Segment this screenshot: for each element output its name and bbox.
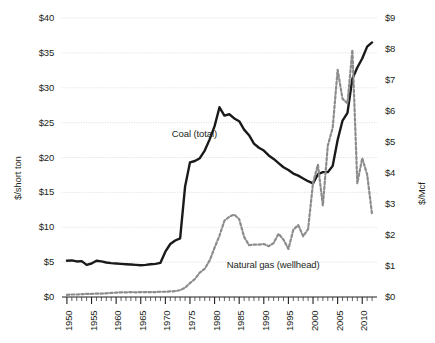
y-axis-right-tick: $4 <box>385 167 395 178</box>
y-axis-right-tick: $9 <box>385 12 395 23</box>
annotation-2: Natural gas (wellhead) <box>227 259 320 270</box>
y-axis-left-tick: $10 <box>39 221 54 232</box>
y-axis-right-tick: $6 <box>385 105 395 116</box>
x-axis-tick: 1990 <box>260 311 271 331</box>
y-axis-left-tick: $20 <box>39 152 54 163</box>
series-line-2 <box>67 50 372 295</box>
y-axis-left-tick: $35 <box>39 47 54 58</box>
y-axis-left-tick: $0 <box>44 291 54 302</box>
chart-plot-area <box>0 0 435 343</box>
x-axis-tick: 1965 <box>137 311 148 331</box>
y-axis-right-tick: $7 <box>385 74 395 85</box>
x-axis-tick: 2000 <box>309 311 320 331</box>
x-axis-tick: 1995 <box>284 311 295 331</box>
x-axis-tick: 1980 <box>211 311 222 331</box>
price-comparison-chart: $0$5$10$15$20$25$30$35$40 $0$1$2$3$4$5$6… <box>0 0 435 343</box>
annotation-1: Coal (total) <box>172 128 217 139</box>
x-axis-tick: 1955 <box>88 311 99 331</box>
y-axis-left-tick: $25 <box>39 117 54 128</box>
y-axis-left-title: $/short ton <box>12 156 23 200</box>
data-series <box>67 42 372 294</box>
y-axis-left-tick: $15 <box>39 186 54 197</box>
x-axis-tick: 1975 <box>186 311 197 331</box>
x-axis-tick: 1970 <box>161 311 172 331</box>
y-axis-right-tick: $0 <box>385 291 395 302</box>
y-axis-left-tick: $30 <box>39 82 54 93</box>
y-axis-right-tick: $2 <box>385 229 395 240</box>
y-axis-right-tick: $3 <box>385 198 395 209</box>
y-axis-left-tick: $5 <box>44 256 54 267</box>
y-axis-right-title: $/Mcf <box>416 182 427 205</box>
y-axis-left-tick: $40 <box>39 12 54 23</box>
y-axis-right-tick: $1 <box>385 260 395 271</box>
x-axis-tick: 1960 <box>112 311 123 331</box>
x-axis-tick: 1985 <box>235 311 246 331</box>
y-axis-right-tick: $5 <box>385 136 395 147</box>
x-axis-tick: 2005 <box>334 311 345 331</box>
x-axis-ticks <box>67 297 372 304</box>
y-axis-right-tick: $8 <box>385 43 395 54</box>
x-axis-tick: 2010 <box>358 311 369 331</box>
x-axis-tick: 1950 <box>63 311 74 331</box>
